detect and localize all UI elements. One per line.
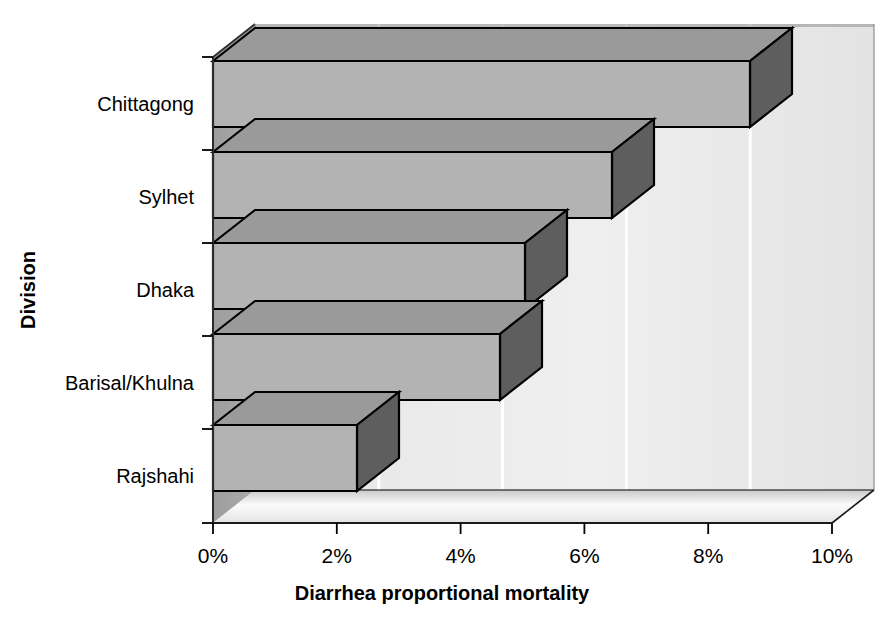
plot-floor xyxy=(213,490,874,523)
y-tick-label-rajshahi: Rajshahi xyxy=(116,465,194,487)
x-tick-label: 8% xyxy=(693,544,723,567)
bar-top-face xyxy=(213,210,567,243)
x-axis-ticks xyxy=(213,523,832,534)
bar-front-face xyxy=(213,152,612,218)
y-tick-label-dhaka: Dhaka xyxy=(136,279,195,301)
bar-top-face xyxy=(213,301,542,334)
x-tick-label: 2% xyxy=(322,544,352,567)
bar-chittagong[interactable] xyxy=(213,28,792,127)
x-tick-labels: 0% 2% 4% 6% 8% 10% xyxy=(198,544,853,567)
chart-container: 0% 2% 4% 6% 8% 10% Chittagong Sylhet Dha… xyxy=(0,0,895,624)
y-tick-label-chittagong: Chittagong xyxy=(97,93,194,115)
x-tick-label: 6% xyxy=(569,544,599,567)
bar-rajshahi[interactable] xyxy=(213,392,399,491)
y-category-labels: Chittagong Sylhet Dhaka Barisal/Khulna R… xyxy=(65,93,195,487)
bar-top-face xyxy=(213,28,792,61)
x-axis-title: Diarrhea proportional mortality xyxy=(295,582,590,604)
bar-front-face xyxy=(213,243,525,309)
x-tick-label: 4% xyxy=(445,544,475,567)
bar-chart-3d: 0% 2% 4% 6% 8% 10% Chittagong Sylhet Dha… xyxy=(0,0,895,624)
x-tick-label: 10% xyxy=(811,544,853,567)
bar-barisal-khulna[interactable] xyxy=(213,301,542,400)
y-tick-label-barisal-khulna: Barisal/Khulna xyxy=(65,372,195,394)
x-tick-label: 0% xyxy=(198,544,228,567)
bar-sylhet[interactable] xyxy=(213,119,654,218)
bar-dhaka[interactable] xyxy=(213,210,567,309)
bar-front-face xyxy=(213,425,357,491)
bar-top-face xyxy=(213,119,654,152)
bar-front-face xyxy=(213,334,500,400)
y-axis-title: Division xyxy=(17,251,39,329)
bar-front-face xyxy=(213,61,750,127)
y-axis-ticks xyxy=(202,57,213,523)
y-tick-label-sylhet: Sylhet xyxy=(138,186,194,208)
